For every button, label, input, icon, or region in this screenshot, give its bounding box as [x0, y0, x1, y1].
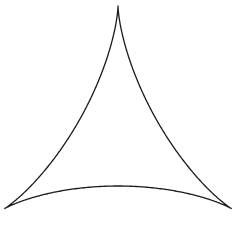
deltoid-diagram	[0, 0, 241, 229]
deltoid-curve	[5, 6, 232, 209]
